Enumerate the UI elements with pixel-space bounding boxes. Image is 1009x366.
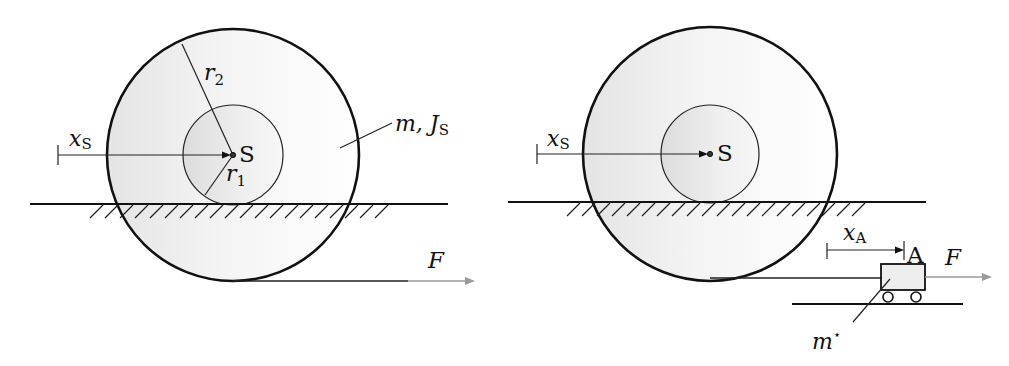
cart-position-label: xA bbox=[843, 220, 866, 247]
position-label: xS bbox=[69, 126, 92, 153]
force-label: F bbox=[944, 244, 962, 270]
diagram-canvas: r2 r1 S xS m, JS F bbox=[0, 0, 1009, 366]
center-point bbox=[707, 151, 712, 156]
cart-wheel-left bbox=[883, 292, 893, 302]
right-diagram: xS S xA A F m⋆ bbox=[508, 27, 992, 354]
center-label: S bbox=[717, 140, 733, 166]
force-arrowhead-icon bbox=[465, 277, 475, 285]
cart-wheel-right bbox=[911, 292, 921, 302]
center-label: S bbox=[239, 141, 255, 167]
center-point bbox=[230, 152, 235, 157]
force-label: F bbox=[427, 247, 445, 273]
mass-label: m, JS bbox=[395, 111, 449, 139]
arrowhead-icon bbox=[895, 247, 904, 254]
cart-point-label: A bbox=[906, 242, 924, 268]
left-diagram: r2 r1 S xS m, JS F bbox=[30, 29, 475, 285]
position-label: xS bbox=[547, 126, 570, 153]
force-arrowhead-icon bbox=[982, 273, 992, 281]
cart-mass-label: m⋆ bbox=[812, 327, 841, 354]
